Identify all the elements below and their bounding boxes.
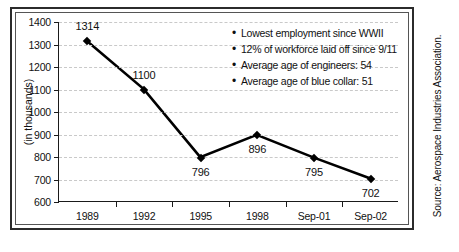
bullet-icon: •: [232, 58, 241, 72]
gridline: [59, 157, 398, 158]
bullet-icon: •: [232, 42, 241, 56]
bullet-icon: •: [232, 74, 241, 88]
annotation-text: Lowest employment since WWII: [241, 26, 383, 40]
data-point-marker: [366, 175, 374, 183]
gridline: [59, 22, 398, 23]
x-tick-mark: [172, 201, 173, 207]
y-tick-label: 600: [34, 196, 51, 208]
source-note: Source: Aerospace Industries Association…: [432, 35, 443, 218]
y-tick-label: 1200: [28, 61, 51, 73]
y-tick-mark: [54, 157, 59, 158]
y-tick-mark: [54, 45, 59, 46]
gridline: [59, 112, 398, 113]
gridline: [59, 180, 398, 181]
x-tick-mark: [286, 201, 287, 207]
x-tick-label: Sep-01: [298, 210, 331, 222]
chart-figure: (in thousands) 6007008009001000110012001…: [0, 0, 459, 252]
x-tick-mark: [229, 201, 230, 207]
x-tick-mark: [342, 201, 343, 207]
data-point-label: 1100: [133, 69, 156, 81]
annotation-item: •Average age of engineers: 54: [232, 58, 404, 72]
y-tick-label: 1100: [29, 84, 51, 96]
data-point-marker: [140, 85, 148, 93]
y-tick-label: 700: [34, 174, 51, 186]
y-tick-mark: [54, 90, 59, 91]
annotation-text: Average age of engineers: 54: [241, 58, 372, 72]
y-tick-mark: [54, 135, 59, 136]
annotation-list: •Lowest employment since WWII•12% of wor…: [232, 26, 404, 90]
gridline: [59, 135, 398, 136]
data-point-marker: [310, 154, 318, 162]
y-tick-mark: [54, 180, 59, 181]
annotation-item: •Average age of blue collar: 51: [232, 74, 404, 88]
annotation-text: 12% of workforce laid off since 9/11: [241, 42, 397, 56]
data-point-label: 795: [305, 166, 323, 178]
x-tick-label: 1998: [246, 210, 269, 222]
annotation-item: •12% of workforce laid off since 9/11: [232, 42, 404, 56]
y-tick-mark: [54, 22, 59, 23]
y-tick-label: 1300: [28, 39, 51, 51]
x-tick-label: 1995: [189, 210, 212, 222]
data-point-label: 1314: [75, 20, 99, 32]
y-tick-mark: [54, 202, 59, 203]
y-tick-mark: [54, 112, 59, 113]
bullet-icon: •: [232, 26, 241, 40]
annotation-text: Average age of blue collar: 51: [241, 74, 373, 88]
y-tick-label: 1000: [28, 106, 51, 118]
data-point-label: 896: [248, 143, 266, 155]
data-point-label: 702: [362, 187, 380, 199]
y-tick-label: 900: [34, 129, 51, 141]
y-tick-label: 1400: [28, 16, 51, 28]
data-point-label: 796: [192, 166, 210, 178]
x-tick-label: Sep-02: [354, 210, 387, 222]
x-tick-mark: [116, 201, 117, 207]
x-tick-label: 1992: [133, 210, 156, 222]
x-tick-label: 1989: [76, 210, 99, 222]
annotation-item: •Lowest employment since WWII: [232, 26, 404, 40]
data-point-marker: [196, 154, 204, 162]
y-tick-label: 800: [34, 151, 51, 163]
y-tick-mark: [54, 67, 59, 68]
data-point-marker: [253, 131, 261, 139]
